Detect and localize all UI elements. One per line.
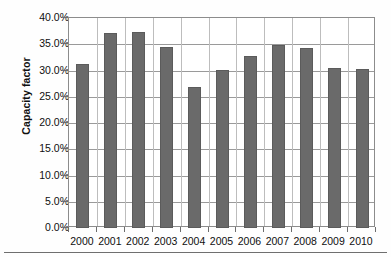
category-separator [320, 18, 321, 226]
x-axis-tick-mark [152, 227, 153, 232]
x-axis-tick-mark [235, 227, 236, 232]
category-separator [209, 18, 210, 226]
y-axis-tick-label: 0.0% [9, 222, 69, 232]
x-axis-tick-mark [96, 227, 97, 232]
x-axis-tick-mark [375, 227, 376, 232]
category-separator [348, 18, 349, 226]
y-axis-tick-label: 20.0% [9, 117, 69, 127]
bar [132, 32, 145, 228]
x-axis-tick-mark [263, 227, 264, 232]
x-axis-tick-mark [291, 227, 292, 232]
bar [272, 45, 285, 228]
x-axis-tick-mark [180, 227, 181, 232]
y-axis-tick-label: 40.0% [9, 12, 69, 22]
x-axis-tick-mark [347, 227, 348, 232]
bar [244, 56, 257, 228]
x-axis-tick-mark [68, 227, 69, 232]
footer-rule [4, 252, 387, 253]
y-axis-tick-label: 25.0% [9, 91, 69, 101]
y-axis-tick-label: 35.0% [9, 38, 69, 48]
y-axis-tick-label: 5.0% [9, 196, 69, 206]
category-separator [153, 18, 154, 226]
category-separator [181, 18, 182, 226]
bar [188, 87, 201, 228]
plot-area [68, 17, 375, 227]
category-separator [125, 18, 126, 226]
y-axis-tick-label: 30.0% [9, 65, 69, 75]
x-axis-tick-mark [319, 227, 320, 232]
y-axis-tick-label: 15.0% [9, 143, 69, 153]
category-separator [264, 18, 265, 226]
category-separator [236, 18, 237, 226]
x-axis-tick-label: 2010 [344, 235, 378, 247]
bar [76, 64, 89, 228]
category-separator [292, 18, 293, 226]
x-axis-tick-mark [124, 227, 125, 232]
y-axis-tick-label: 10.0% [9, 170, 69, 180]
category-separator [97, 18, 98, 226]
bar [104, 33, 117, 228]
bar [216, 70, 229, 228]
bar [328, 68, 341, 228]
bar [300, 48, 313, 228]
chart-figure: Capacity factor 0.0%5.0%10.0%15.0%20.0%2… [0, 0, 391, 257]
bar [160, 47, 173, 228]
bar [356, 69, 369, 228]
x-axis-tick-mark [208, 227, 209, 232]
